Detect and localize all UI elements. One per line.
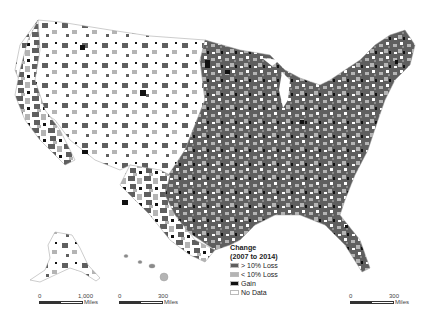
legend-title: Change [230,243,278,252]
swatch-less-10-loss [230,272,239,277]
scalebar-alaska: 0 1,000 Miles [38,293,128,307]
legend-label: < 10% Loss [241,270,278,279]
scale-unit: Miles [395,299,409,305]
scale-bar [119,301,163,304]
swatch-no-data [230,290,239,295]
alaska [30,232,100,282]
legend-item-greater-10-loss: > 10% Loss [230,261,278,270]
scalebar-hawaii: 0 300 Miles [118,293,208,307]
scale-start: 0 [349,293,352,299]
scale-start: 0 [38,293,41,299]
scalebar-conus: 0 300 Miles [349,293,429,307]
legend-label: No Data [241,288,267,297]
scale-bar [350,301,394,304]
legend-item-no-data: No Data [230,288,278,297]
scale-start: 0 [118,293,121,299]
us-county-change-map [0,0,434,320]
contiguous-us [15,20,415,272]
legend-label: Gain [241,279,256,288]
legend-subtitle: (2007 to 2014) [230,252,278,261]
swatch-greater-10-loss [230,263,239,268]
legend-label: > 10% Loss [241,261,278,270]
scale-bar [39,301,83,304]
hawaii [124,255,168,282]
scale-unit: Miles [84,299,98,305]
legend-item-less-10-loss: < 10% Loss [230,270,278,279]
swatch-gain [230,281,239,286]
map-legend: Change (2007 to 2014) > 10% Loss < 10% L… [230,243,278,297]
legend-item-gain: Gain [230,279,278,288]
scale-unit: Miles [164,299,178,305]
